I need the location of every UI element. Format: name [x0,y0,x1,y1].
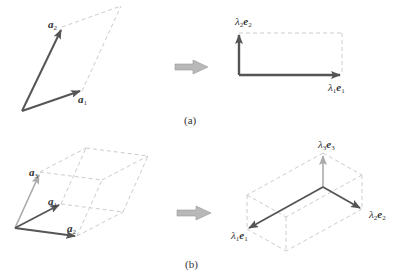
caption-b: (b) [185,259,198,270]
parallelogram-a [22,6,121,111]
label-a1: a1 [48,196,57,209]
label-lambda1-e1: λ1e1 [231,230,248,243]
diagram-canvas [0,0,396,273]
vector-e2-arrow [323,187,360,208]
caption-a: (a) [184,115,196,126]
vector-a3-arrow [15,175,39,228]
label-a2: a2 [48,19,57,32]
label-lambda1-e1: λ1e1 [328,82,345,95]
vector-e1-arrow [249,187,323,228]
vector-a2-arrow [15,228,75,236]
transform-arrow-b [177,206,211,220]
parallelepiped-b [40,148,148,236]
label-lambda2-e2: λ2e2 [235,16,252,29]
vectors-b-left [15,175,75,236]
transform-arrow-a [175,60,208,74]
label-lambda3-e3: λ3e3 [318,139,335,152]
label-lambda2-e2: λ2e2 [369,209,386,222]
label-a1: a1 [78,94,87,107]
dashed-edge [82,6,121,91]
vectors-b-right [249,156,360,228]
label-a3: a3 [29,167,38,180]
dashed-edge [62,6,121,27]
box-b [247,153,362,251]
rectangle-a [239,33,342,75]
label-a2: a2 [67,223,76,236]
